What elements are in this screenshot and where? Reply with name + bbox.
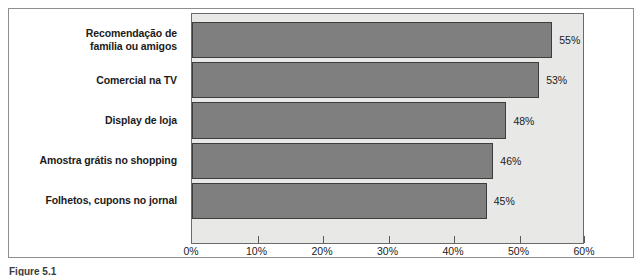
figure-caption: Figure 5.1 [9,266,56,276]
category-label-row: Amostra grátis no shopping [9,143,185,179]
figure-page: Recomendação de família ou amigosComerci… [0,0,642,276]
bar [192,22,552,58]
x-axis-tick-mark [323,236,324,243]
category-label: Comercial na TV [96,74,177,87]
x-axis-tick-label: 0% [183,245,198,257]
category-label-row: Display de loja [9,102,185,138]
bar-value-label: 45% [494,195,515,207]
plot-area: 55%53%48%46%45% [191,13,584,244]
bar-value-label: 48% [513,115,534,127]
x-axis-tick-label: 20% [311,245,332,257]
x-axis-tick-label: 50% [508,245,529,257]
bar [192,143,493,179]
category-label: Folhetos, cupons no jornal [45,194,177,207]
bar-value-label: 46% [500,155,521,167]
category-label-row: Comercial na TV [9,62,185,98]
bar-value-label: 55% [559,34,580,46]
x-axis-tick-labels: 0%10%20%30%40%50%60% [191,245,584,261]
x-axis-tick-label: 40% [442,245,463,257]
category-label: Recomendação de família ou amigos [86,27,177,53]
x-axis-tick-label: 60% [573,245,594,257]
bars-layer: 55%53%48%46%45% [192,14,583,243]
bar [192,183,487,219]
x-axis-tick-mark [584,236,585,243]
figure-frame: Recomendação de família ou amigosComerci… [8,8,634,258]
x-axis-tick-mark [389,236,390,243]
bar [192,62,539,98]
category-label-row: Recomendação de família ou amigos [9,22,185,58]
category-label: Amostra grátis no shopping [40,154,177,167]
category-axis: Recomendação de família ou amigosComerci… [9,13,185,244]
x-axis-tick-label: 30% [377,245,398,257]
bar [192,102,506,138]
x-axis-tick-mark [454,236,455,243]
category-label: Display de loja [105,114,177,127]
x-axis-tick-mark [258,236,259,243]
x-axis-tick-mark [520,236,521,243]
category-label-row: Folhetos, cupons no jornal [9,183,185,219]
bar-value-label: 53% [546,74,567,86]
x-axis-tick-label: 10% [246,245,267,257]
